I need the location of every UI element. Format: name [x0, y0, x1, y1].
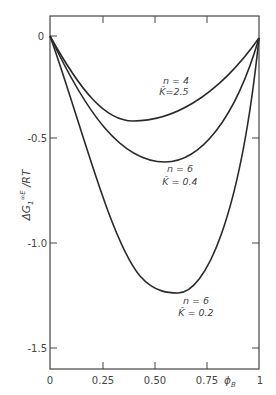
curve-labels: n = 4 K̄=2.5 n = 6 K̄ = 0.4 n = 6 K̄ = 0…	[159, 75, 213, 318]
x-tick-label: 0.50	[144, 375, 166, 386]
curve-n6-k0.4	[50, 36, 259, 162]
curves	[50, 36, 259, 293]
label-n6-b: n = 6	[183, 295, 209, 306]
label-k0.2: K̄ = 0.2	[178, 307, 213, 318]
x-axis-title: ϕB	[224, 374, 236, 389]
x-tick-label: 0.25	[92, 375, 114, 386]
y-axis-title: ΔG1∞E /RT	[19, 168, 35, 221]
y-tick-label: -1.0	[27, 238, 47, 249]
y-tick-label: -0.5	[27, 133, 47, 144]
label-k0.4: K̄ = 0.4	[162, 176, 197, 187]
label-n6-a: n = 6	[167, 163, 193, 174]
plot-frame	[50, 16, 259, 369]
label-k2.5: K̄=2.5	[159, 86, 188, 97]
x-tick-label: 0.75	[196, 375, 218, 386]
label-n4: n = 4	[163, 75, 189, 86]
x-tick-label: 1	[257, 375, 263, 386]
x-tick-label: 0	[47, 375, 53, 386]
y-tick-label: 0	[38, 31, 44, 42]
chart: 0 -0.5 -1.0 -1.5 ΔG1∞E /RT 0 0.25 0.50 0…	[0, 0, 276, 395]
y-tick-label: -1.5	[27, 343, 47, 354]
curve-n4-k2.5	[50, 36, 259, 121]
